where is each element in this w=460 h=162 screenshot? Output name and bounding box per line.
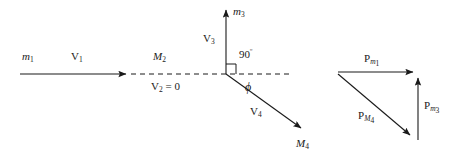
- physics-collision-diagram: m1 V1 M2 V2 = 0 m3 V3 90º ϕ V4 M4 Pm1 Pm…: [0, 0, 460, 162]
- label-target-velocity: V2 = 0: [151, 81, 180, 92]
- label-scatter-angle: ϕ: [245, 81, 251, 93]
- label-momentum-pm1: Pm1: [364, 53, 379, 64]
- right-angle-marker: [226, 64, 236, 74]
- diagram-canvas: [0, 0, 460, 162]
- label-outgoing-down-mass: M4: [296, 138, 309, 149]
- label-momentum-pm3: Pm3: [424, 100, 439, 111]
- label-outgoing-down-velocity: V4: [250, 106, 262, 117]
- label-incoming-velocity: V1: [71, 51, 83, 62]
- label-momentum-pm4: PM4: [358, 110, 374, 121]
- label-incoming-mass: m1: [22, 51, 34, 62]
- outgoing-velocity-down-arrow: [226, 74, 301, 128]
- momentum-pm4-arrow: [338, 74, 410, 135]
- label-outgoing-up-velocity: V3: [203, 33, 215, 44]
- label-outgoing-up-mass: m3: [233, 6, 245, 17]
- label-right-angle: 90º: [239, 49, 252, 60]
- label-target-mass: M2: [153, 51, 166, 62]
